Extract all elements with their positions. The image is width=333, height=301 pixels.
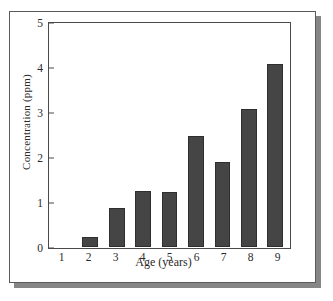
bar-5	[162, 192, 178, 247]
plot-area: 012345	[48, 22, 291, 249]
bar-slot-7	[209, 24, 235, 246]
y-axis-tick-mark-4	[49, 68, 54, 69]
y-axis-tick-mark-0	[49, 248, 54, 249]
y-axis-tick-1: 1	[37, 197, 49, 209]
bar-4	[135, 191, 151, 247]
y-axis-tick-mark-2	[49, 158, 54, 159]
bar-series	[50, 24, 288, 246]
bar-slot-3	[103, 24, 129, 246]
y-axis-tick-mark-1	[49, 203, 54, 204]
bar-slot-6	[183, 24, 209, 246]
bar-6	[188, 136, 204, 247]
bar-7	[215, 162, 231, 246]
bar-slot-1	[50, 24, 76, 246]
plot-wrapper: Concentration (ppm) 012345 123456789 Age…	[10, 12, 317, 284]
y-axis-tick-mark-5	[49, 23, 54, 24]
y-axis-tick-mark-3	[49, 113, 54, 114]
y-axis-tick-3: 3	[37, 107, 49, 119]
bar-slot-4	[130, 24, 156, 246]
bar-slot-2	[77, 24, 103, 246]
y-axis-tick-2: 2	[37, 152, 49, 164]
bar-9	[267, 64, 283, 246]
bar-8	[241, 109, 257, 247]
figure-frame: Concentration (ppm) 012345 123456789 Age…	[9, 11, 316, 283]
y-axis-tick-5: 5	[37, 17, 49, 29]
bar-slot-8	[236, 24, 262, 246]
bar-slot-9	[262, 24, 288, 246]
bar-3	[109, 208, 125, 247]
y-axis-label: Concentration (ppm)	[20, 42, 32, 202]
x-axis-label: Age (years)	[10, 255, 317, 270]
y-axis-tick-4: 4	[37, 62, 49, 74]
bar-slot-5	[156, 24, 182, 246]
chart-screenshot: Concentration (ppm) 012345 123456789 Age…	[0, 0, 333, 301]
bar-2	[82, 237, 98, 247]
